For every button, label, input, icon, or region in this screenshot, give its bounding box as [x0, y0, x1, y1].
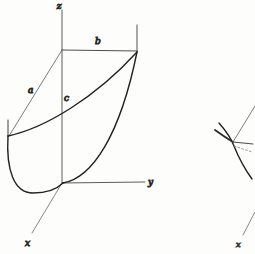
x-axis-line — [32, 183, 62, 233]
secondary-tangent-segment — [215, 130, 233, 142]
segment-label-a: a — [28, 85, 33, 95]
secondary-ray-upper — [233, 106, 255, 142]
z-axis-label: z — [56, 1, 62, 11]
y-axis-label: y — [147, 177, 154, 187]
secondary-curve — [219, 123, 252, 179]
secondary-x-axis-line — [243, 212, 255, 235]
edge-b-line — [62, 50, 137, 51]
secondary-x-axis-label: x — [236, 240, 241, 249]
front-parabola-curve — [63, 52, 137, 183]
secondary-ray-right — [233, 142, 253, 144]
figure-page: z y x a b c x — [0, 0, 255, 254]
y-axis-line — [62, 182, 145, 183]
segment-label-c: c — [64, 93, 69, 103]
bottom-parabola-curve — [8, 136, 63, 193]
secondary-diagram: x — [215, 106, 255, 249]
edge-a-line — [9, 50, 62, 136]
x-axis-label: x — [25, 238, 30, 248]
primary-diagram: z y x a b c — [8, 1, 154, 248]
segment-label-b: b — [95, 36, 101, 46]
figure-canvas: z y x a b c x — [0, 0, 255, 254]
